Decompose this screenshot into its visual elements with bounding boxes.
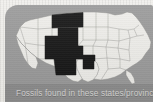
state-montana xyxy=(52,13,83,29)
state-oklahoma-panhandle xyxy=(83,55,95,61)
map-caption-text: Fossils found in these states/provinces xyxy=(16,89,153,98)
figure-panel: Fossils found in these states/provinces xyxy=(0,0,153,102)
us-map-svg xyxy=(8,7,153,87)
map-caption-bar: Fossils found in these states/provinces xyxy=(5,84,153,102)
state-new-mexico xyxy=(54,59,76,75)
us-map xyxy=(8,7,153,87)
florida xyxy=(126,70,135,84)
map-states-layer xyxy=(16,12,151,84)
map-card: Fossils found in these states/provinces xyxy=(5,5,153,102)
state-wyoming xyxy=(58,28,78,47)
state-colorado xyxy=(63,46,83,59)
state-texas-panhandle xyxy=(83,61,94,69)
